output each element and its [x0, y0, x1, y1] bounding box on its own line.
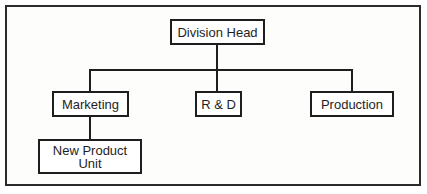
connector-to-rnd: [216, 69, 218, 92]
node-division-head: Division Head: [170, 19, 265, 45]
node-marketing: Marketing: [52, 91, 129, 117]
node-rnd: R & D: [195, 91, 242, 117]
node-new-product-unit: New Product Unit: [38, 139, 142, 174]
node-label: Division Head: [177, 26, 257, 39]
node-label: Production: [321, 98, 383, 111]
connector-head-down: [216, 44, 218, 70]
node-label: R & D: [201, 98, 236, 111]
node-production: Production: [310, 91, 394, 117]
node-label-line2: Unit: [78, 157, 101, 170]
connector-to-marketing: [89, 69, 91, 92]
connector-to-production: [351, 69, 353, 92]
connector-horizontal-bar: [89, 69, 352, 71]
node-label: Marketing: [62, 98, 119, 111]
node-label-line1: New Product: [53, 144, 127, 157]
connector-marketing-to-new-product: [89, 116, 91, 140]
